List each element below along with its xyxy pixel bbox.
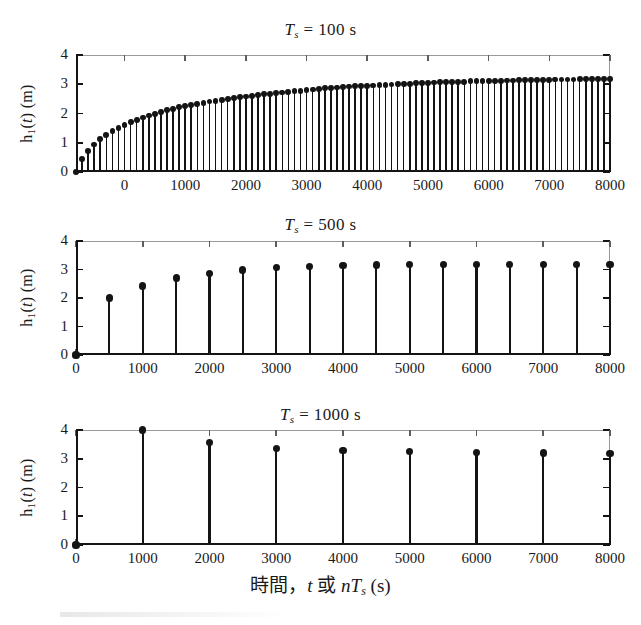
x-tick-label: 6000 — [447, 550, 507, 567]
x-tick-label: 7000 — [513, 360, 573, 377]
x-axis-label: 時間，t 或 nTs (s) — [0, 570, 641, 599]
stem-line — [245, 97, 247, 172]
stem-line — [542, 80, 544, 172]
stem-line — [130, 122, 132, 172]
stem-line — [561, 80, 563, 172]
stem-line — [609, 264, 611, 355]
x-tick-label: 8000 — [580, 550, 640, 567]
x-tick-top — [342, 430, 344, 436]
stem-line — [591, 79, 593, 172]
stem-line — [309, 266, 311, 355]
x-tick-top — [142, 241, 144, 247]
stem-line — [439, 82, 441, 172]
data-point-marker — [473, 261, 480, 268]
data-point-marker — [339, 447, 346, 454]
x-tick-label: 1000 — [113, 360, 173, 377]
stem-line — [609, 79, 611, 172]
x-tick-label: 1000 — [155, 177, 215, 194]
title-symbol-T: Ts — [284, 20, 299, 39]
data-point-marker — [128, 119, 134, 125]
plot-axes-ts-100: 01234010002000300040005000600070008000 — [76, 55, 610, 172]
stem-line — [445, 82, 447, 172]
stem-line — [318, 89, 320, 172]
plot-title-ts-100: Ts = 100 s — [0, 20, 641, 40]
data-point-marker — [237, 94, 243, 100]
data-point-marker — [139, 426, 146, 433]
y-axis-label-panel-2: h1(t) (m) — [18, 243, 37, 353]
x-tick-label: 2000 — [216, 177, 276, 194]
stem-line — [275, 268, 277, 355]
data-point-marker — [328, 85, 334, 91]
stem-line — [542, 453, 544, 545]
x-tick-label: 6000 — [459, 177, 519, 194]
data-point-marker — [170, 106, 176, 112]
stem-line — [409, 84, 411, 172]
x-tick-label: 7000 — [519, 177, 579, 194]
y-tick-label: 1 — [42, 507, 68, 524]
stem-line — [488, 81, 490, 172]
stem-line — [257, 95, 259, 172]
data-point-marker — [152, 111, 158, 117]
data-point-marker — [134, 117, 140, 123]
data-point-marker — [440, 261, 447, 268]
title-symbol-T: Ts — [280, 405, 295, 424]
y-tick-label: 3 — [42, 75, 68, 92]
data-point-marker — [383, 82, 389, 88]
x-tick-label: 5000 — [380, 550, 440, 567]
xlabel-cjk-time: 時間 — [250, 574, 288, 596]
stem-line — [555, 80, 557, 172]
x-tick-label: 4000 — [313, 550, 373, 567]
axis-left-spine — [76, 55, 78, 172]
data-point-marker — [522, 77, 528, 83]
data-point-marker — [358, 83, 364, 89]
data-point-marker — [140, 115, 146, 121]
data-point-marker — [116, 125, 122, 131]
data-point-marker — [577, 76, 583, 82]
x-tick-label: 5000 — [380, 360, 440, 377]
x-tick-label: 3000 — [277, 177, 337, 194]
x-tick-top — [366, 55, 368, 61]
stem-line — [542, 264, 544, 355]
data-point-marker — [583, 76, 589, 82]
x-tick-label: 2000 — [180, 550, 240, 567]
data-point-marker — [79, 156, 85, 162]
stem-line — [197, 104, 199, 172]
stem-line — [136, 120, 138, 172]
data-point-marker — [146, 113, 152, 119]
axis-baseline — [76, 543, 610, 545]
data-point-marker — [173, 274, 180, 281]
data-point-marker — [516, 77, 522, 83]
stem-line — [227, 99, 229, 172]
y-tick-label: 2 — [42, 105, 68, 122]
data-point-marker — [334, 85, 340, 91]
stem-line — [112, 131, 114, 172]
stem-line — [282, 92, 284, 172]
plot-panel-ts-500: Ts = 500 s h1(t) (m) 0123401000200030004… — [0, 207, 641, 397]
scan-artifact — [60, 612, 290, 617]
stem-line — [106, 135, 108, 172]
stem-line — [360, 86, 362, 172]
x-tick-label: 0 — [46, 360, 106, 377]
data-point-marker — [339, 262, 346, 269]
stem-line — [403, 84, 405, 172]
stem-line — [242, 270, 244, 355]
stem-line — [579, 79, 581, 172]
data-point-marker — [449, 79, 455, 85]
stem-line — [475, 453, 477, 545]
data-point-marker — [273, 445, 280, 452]
stem-line — [239, 97, 241, 172]
axis-baseline — [76, 170, 610, 172]
data-point-marker — [546, 77, 552, 83]
x-tick-label: 2000 — [180, 360, 240, 377]
stem-line — [494, 81, 496, 172]
x-tick-label: 0 — [95, 177, 155, 194]
stem-line — [330, 88, 332, 172]
data-point-marker — [534, 77, 540, 83]
stem-line — [385, 85, 387, 172]
stem-line — [275, 93, 277, 172]
stem-line — [118, 128, 120, 172]
data-point-marker — [601, 76, 607, 82]
stem-line — [457, 82, 459, 172]
stem-line — [524, 80, 526, 172]
x-tick-top — [409, 430, 411, 436]
